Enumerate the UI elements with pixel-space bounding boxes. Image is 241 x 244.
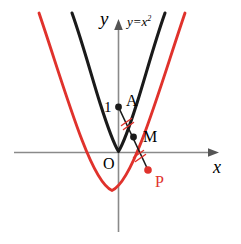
curve-equation-exponent: 2 bbox=[147, 14, 151, 23]
axes-group bbox=[14, 19, 219, 232]
figure-canvas bbox=[0, 0, 241, 244]
point-p-label: P bbox=[155, 174, 164, 190]
x-axis-label: x bbox=[213, 158, 221, 176]
origin-label: O bbox=[103, 156, 115, 172]
point-a-marker bbox=[115, 104, 122, 111]
x-axis-arrowhead bbox=[208, 148, 219, 157]
point-a-label: A bbox=[126, 93, 138, 109]
y-axis-label: y bbox=[100, 9, 108, 28]
y-tick-label-1: 1 bbox=[104, 100, 112, 115]
point-m-label: M bbox=[143, 129, 157, 145]
point-p-marker bbox=[144, 166, 152, 174]
point-m-marker bbox=[130, 134, 137, 141]
curve-equation-base: y=x bbox=[127, 14, 147, 29]
y-axis-arrowhead bbox=[114, 19, 123, 30]
math-figure: y y=x2 x 1 A M P O bbox=[0, 0, 241, 244]
curve-equation-label: y=x2 bbox=[127, 15, 151, 28]
